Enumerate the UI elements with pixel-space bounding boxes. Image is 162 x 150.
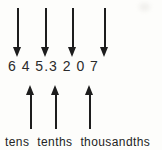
label-thousandths: thousandths (80, 136, 150, 148)
label-tenths: tenths (37, 136, 72, 148)
number-digits: 6 4 5.3 2 0 7 (8, 59, 99, 73)
place-labels-row: tens tenths thousandths (5, 136, 150, 148)
arrow-head (13, 47, 21, 57)
arrow-shaft (72, 8, 74, 48)
arrow-shaft (17, 8, 19, 48)
place-value-diagram: 6 4 5.3 2 0 7 tens tenths thousandths (0, 0, 162, 150)
scan-smudge (139, 3, 150, 11)
arrow-head (51, 85, 59, 95)
arrow-shaft (55, 94, 57, 129)
down-arrow-icon (68, 8, 77, 57)
up-arrow-icon (51, 85, 60, 129)
label-tens: tens (5, 136, 29, 148)
arrow-shaft (89, 94, 91, 129)
arrow-head (26, 85, 34, 95)
up-arrow-icon (85, 85, 94, 129)
down-arrow-icon (100, 8, 109, 57)
arrow-head (41, 47, 49, 57)
down-arrow-icon (13, 8, 22, 57)
up-arrow-icon (26, 85, 35, 129)
down-arrow-icon (41, 8, 50, 57)
arrow-head (85, 85, 93, 95)
arrow-shaft (30, 94, 32, 129)
arrow-shaft (45, 8, 47, 48)
arrow-shaft (104, 8, 106, 48)
arrow-head (68, 47, 76, 57)
arrow-head (100, 47, 108, 57)
